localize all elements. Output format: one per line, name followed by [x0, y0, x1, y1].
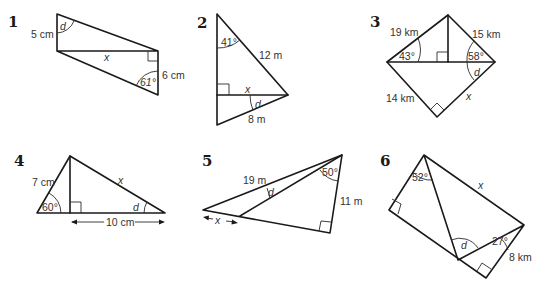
problem-2-diagram: 2 41° 12 m x d 8 m — [197, 14, 288, 125]
right-angle-marker — [217, 84, 229, 95]
right-angle-marker — [430, 103, 444, 110]
angle-label: 52° — [412, 171, 428, 183]
unknown-side-label: x — [477, 179, 484, 191]
angle-label: 61° — [140, 76, 156, 88]
problem-4-diagram: 4 7 cm 60° x d 10 cm — [14, 152, 165, 228]
unknown-side-label: x — [244, 83, 251, 95]
arrow-left-icon — [71, 220, 77, 225]
problem-number: 4 — [14, 152, 24, 170]
unknown-side-label: x — [465, 90, 472, 102]
angle-label: 27° — [492, 235, 508, 247]
side-label: 19 m — [243, 174, 267, 186]
side-label: 8 km — [509, 251, 532, 263]
unknown-angle-label: d — [133, 201, 140, 213]
problem-number: 6 — [380, 152, 390, 170]
angle-label: 58° — [468, 50, 484, 62]
unknown-side-label: x — [214, 214, 221, 226]
problem-1-diagram: 1 d 5 cm x 6 cm 61° — [8, 13, 185, 95]
angle-arc — [144, 202, 147, 213]
angle-arc — [418, 38, 420, 62]
unknown-side-label: x — [117, 174, 124, 186]
problem-number: 1 — [8, 13, 18, 31]
problem-number: 5 — [202, 152, 212, 170]
arrow-right-icon — [159, 220, 165, 225]
angle-label: 43° — [399, 50, 415, 62]
problem-number: 3 — [370, 13, 380, 31]
right-angle-marker — [437, 52, 448, 62]
side-label: 7 cm — [32, 176, 55, 188]
side-label: 15 km — [472, 28, 501, 40]
angle-label: 50° — [322, 166, 338, 178]
right-angle-marker — [319, 221, 331, 231]
side-label: 14 km — [386, 92, 415, 104]
unknown-side-label: x — [103, 51, 110, 63]
trigonometry-diagrams-sheet: 1 d 5 cm x 6 cm 61° 2 41° 12 m x d 8 m 3 — [0, 0, 539, 287]
side-label: 10 cm — [106, 216, 135, 228]
unknown-angle-label: d — [461, 239, 468, 251]
right-angle-marker — [392, 199, 401, 214]
right-angle-marker — [148, 51, 158, 61]
angle-arc — [250, 95, 253, 110]
arrow-left-icon — [203, 216, 209, 221]
unknown-angle-label: d — [255, 98, 262, 110]
angle-label: 41° — [221, 36, 237, 48]
angle-label: 60° — [42, 201, 58, 213]
problem-6-diagram: 6 52° x d 27° 8 km — [380, 152, 532, 278]
side-label: 11 m — [340, 195, 363, 207]
arrow-right-icon — [232, 220, 239, 225]
side-label: 8 m — [248, 113, 266, 125]
problem-number: 2 — [197, 14, 207, 32]
problem-3-diagram: 3 19 km 15 km 43° 58° d 14 km x — [370, 13, 501, 117]
side-label: 5 cm — [31, 28, 54, 40]
side-label: 6 cm — [162, 69, 185, 81]
problem-5-diagram: 5 19 m d 50° 11 m x — [202, 152, 363, 233]
right-angle-marker — [477, 263, 491, 271]
quadrilateral-outline — [389, 155, 524, 278]
side-label: 19 km — [390, 26, 419, 38]
side-label: 12 m — [259, 49, 283, 61]
right-angle-marker — [70, 202, 81, 213]
